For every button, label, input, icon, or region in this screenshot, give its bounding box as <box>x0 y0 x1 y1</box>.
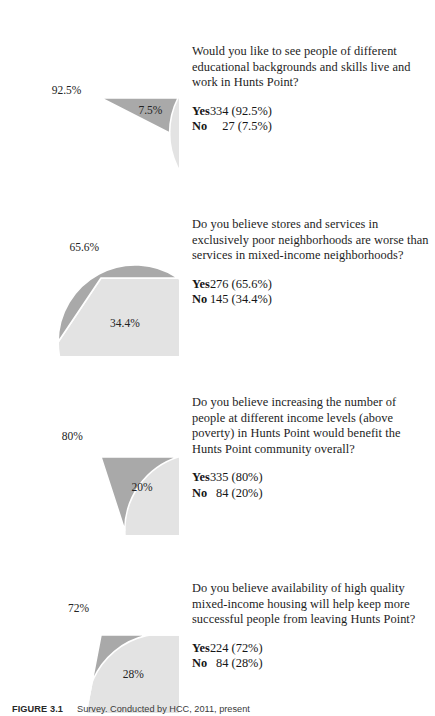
pie-chart-4: 72%28% <box>23 557 179 713</box>
survey-panel: 65.6%34.4% Do you believe stores and ser… <box>0 186 435 366</box>
pie-slice-label-minor: 34.4% <box>110 317 140 329</box>
pie-slice-label-minor: 28% <box>123 668 145 680</box>
table-row: No 84 (28%) <box>192 656 263 671</box>
pie-slice-label-major: 72% <box>68 602 90 614</box>
question-text: Do you believe increasing the number of … <box>192 395 432 457</box>
table-row: Yes 334 (92.5%) <box>192 104 272 119</box>
answer-label-yes: Yes <box>192 470 210 485</box>
question-text: Would you like to see people of differen… <box>192 44 432 91</box>
pie-slice-label-major: 80% <box>62 430 84 442</box>
answer-value-yes: 224 (72%) <box>210 641 263 656</box>
answer-label-no: No <box>192 656 210 671</box>
answer-value-no: 145 (34.4%) <box>210 292 272 307</box>
table-row: No 145 (34.4%) <box>192 292 272 307</box>
pie-chart-2: 65.6%34.4% <box>23 200 179 356</box>
answer-label-yes: Yes <box>192 641 210 656</box>
question-text: Do you believe availability of high qual… <box>192 581 432 628</box>
answer-label-yes: Yes <box>192 277 210 292</box>
question-block: Do you believe increasing the number of … <box>192 395 432 501</box>
pie-chart-3: 80%20% <box>23 379 179 535</box>
question-text: Do you believe stores and services in ex… <box>192 217 432 264</box>
survey-panel: 80%20% Do you believe increasing the num… <box>0 365 435 545</box>
pie-chart-3-svg: 80%20% <box>23 379 179 535</box>
answer-value-no: 27 (7.5%) <box>210 119 272 134</box>
answer-value-no: 84 (20%) <box>210 486 263 501</box>
pie-slice-label-major: 92.5% <box>52 84 82 96</box>
pie-slice-label-minor: 7.5% <box>138 104 162 116</box>
answers-table: Yes 276 (65.6%) No 145 (34.4%) <box>192 277 272 308</box>
pie-chart-1-svg: 92.5%7.5% <box>23 20 179 176</box>
question-block: Do you believe stores and services in ex… <box>192 217 432 308</box>
answers-table: Yes 224 (72%) No 84 (28%) <box>192 641 263 672</box>
pie-chart-2-svg: 65.6%34.4% <box>23 200 179 356</box>
survey-panel: 92.5%7.5% Would you like to see people o… <box>0 6 435 186</box>
question-block: Would you like to see people of differen… <box>192 44 432 135</box>
figure-3-1: 92.5%7.5% Would you like to see people o… <box>0 0 435 716</box>
pie-slice-label-minor: 20% <box>132 481 154 493</box>
pie-chart-1: 92.5%7.5% <box>23 20 179 176</box>
survey-panel: 72%28% Do you believe availability of hi… <box>0 543 435 716</box>
question-block: Do you believe availability of high qual… <box>192 581 432 672</box>
answer-value-yes: 335 (80%) <box>210 470 263 485</box>
table-row: No 27 (7.5%) <box>192 119 272 134</box>
answer-value-yes: 334 (92.5%) <box>210 104 272 119</box>
table-row: No 84 (20%) <box>192 486 263 501</box>
answer-value-no: 84 (28%) <box>210 656 263 671</box>
pie-chart-4-svg: 72%28% <box>23 557 179 713</box>
pie-slice-label-major: 65.6% <box>69 241 99 253</box>
figure-caption-label: FIGURE 3.1 <box>12 704 63 714</box>
answer-label-yes: Yes <box>192 104 210 119</box>
answer-value-yes: 276 (65.6%) <box>210 277 272 292</box>
table-row: Yes 276 (65.6%) <box>192 277 272 292</box>
figure-caption-text: Survey. Conducted by HCC, 2011, present <box>77 704 250 714</box>
answers-table: Yes 334 (92.5%) No 27 (7.5%) <box>192 104 272 135</box>
answers-table: Yes 335 (80%) No 84 (20%) <box>192 470 263 501</box>
figure-caption: FIGURE 3.1Survey. Conducted by HCC, 2011… <box>12 703 432 715</box>
answer-label-no: No <box>192 486 210 501</box>
answer-label-no: No <box>192 292 210 307</box>
answer-label-no: No <box>192 119 210 134</box>
table-row: Yes 224 (72%) <box>192 641 263 656</box>
table-row: Yes 335 (80%) <box>192 470 263 485</box>
